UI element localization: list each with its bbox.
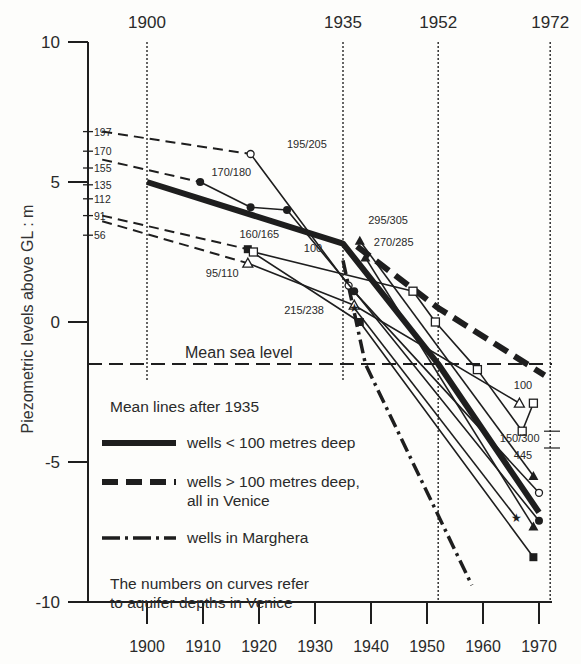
marker-open-square bbox=[431, 318, 439, 326]
curve-label: 150/300 bbox=[500, 432, 540, 444]
curve-label: 270/285 bbox=[374, 236, 414, 248]
marker-open-square bbox=[409, 287, 417, 295]
x-tick-label: 1940 bbox=[353, 638, 389, 655]
reference-year-label: 1900 bbox=[128, 13, 166, 32]
depth-tick-label: 135 bbox=[94, 179, 112, 191]
marker-open-square bbox=[249, 248, 257, 256]
y-axis-label: Piezometric levels above GL : m bbox=[19, 189, 37, 449]
depth-tick-label: 56 bbox=[94, 229, 106, 241]
marker-filled-square bbox=[529, 553, 537, 561]
marker-filled-circle bbox=[196, 178, 204, 186]
y-tick-label: 5 bbox=[51, 173, 60, 192]
curve-label: 100 bbox=[304, 242, 322, 254]
x-tick-label: 1920 bbox=[241, 638, 277, 655]
marker-open-square bbox=[529, 399, 537, 407]
mean-sea-level-label: Mean sea level bbox=[185, 344, 293, 361]
marker-filled-circle bbox=[350, 287, 358, 295]
x-tick-label: 1910 bbox=[185, 638, 221, 655]
marker-open-square bbox=[473, 366, 481, 374]
depth-tick-label: 170 bbox=[94, 145, 112, 157]
curve-label: 100 bbox=[514, 379, 532, 391]
x-tick-label: 1960 bbox=[465, 638, 501, 655]
x-tick-label: 1930 bbox=[297, 638, 333, 655]
x-tick-label: 1950 bbox=[409, 638, 445, 655]
marker-filled-circle bbox=[247, 203, 255, 211]
x-tick-label: 1970 bbox=[521, 638, 557, 655]
reference-year-label: 1952 bbox=[419, 13, 457, 32]
x-tick-label: 1900 bbox=[129, 638, 165, 655]
series-270-285 bbox=[365, 258, 533, 527]
marker-star: ★ bbox=[511, 511, 522, 525]
curve-label: 445 bbox=[514, 449, 532, 461]
marker-open-circle bbox=[536, 489, 543, 496]
y-tick-label: 0 bbox=[51, 313, 60, 332]
curve-label: 295/305 bbox=[368, 214, 408, 226]
y-tick-label: -10 bbox=[35, 593, 60, 612]
marker-filled-circle bbox=[283, 206, 291, 214]
curve-label: 170/180 bbox=[211, 166, 251, 178]
depth-tick-label: 155 bbox=[94, 162, 112, 174]
marker-filled-triangle bbox=[355, 236, 365, 245]
extrapolation-line bbox=[102, 160, 200, 182]
extrapolation-line bbox=[102, 132, 250, 154]
series-160-165 bbox=[248, 249, 534, 557]
legend-title: Mean lines after 1935 bbox=[110, 398, 259, 416]
depth-tick-label: 112 bbox=[94, 193, 111, 205]
extrapolation-line bbox=[102, 216, 248, 250]
curve-label: 160/165 bbox=[239, 228, 279, 240]
curve-label: 195/205 bbox=[287, 138, 327, 150]
legend-note: The numbers on curves referto aquifer de… bbox=[110, 574, 309, 612]
y-tick-label: -5 bbox=[45, 453, 60, 472]
chart-canvas: 1050-5-101900191019201930194019501960197… bbox=[0, 0, 581, 664]
marker-star: ★ bbox=[349, 301, 360, 315]
curve-label: 215/238 bbox=[284, 304, 324, 316]
curve-label: 95/110 bbox=[206, 267, 239, 279]
marker-filled-circle bbox=[535, 517, 543, 525]
marker-open-circle bbox=[247, 151, 254, 158]
reference-year-label: 1972 bbox=[531, 13, 569, 32]
series-100 bbox=[253, 252, 533, 431]
series-215-238 bbox=[354, 308, 516, 518]
y-tick-label: 10 bbox=[41, 33, 60, 52]
extrapolation-line bbox=[102, 221, 248, 263]
marker-open-triangle bbox=[514, 398, 524, 407]
reference-year-label: 1935 bbox=[324, 13, 362, 32]
